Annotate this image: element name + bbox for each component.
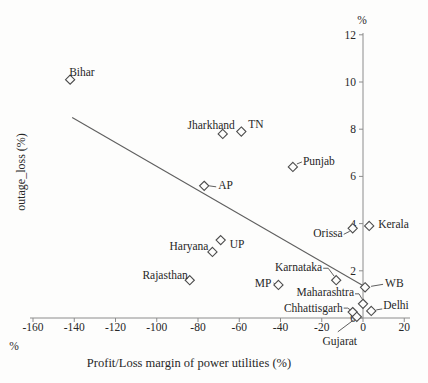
marker-haryana <box>208 247 217 256</box>
point-label-jharkhand: Jharkhand <box>187 119 235 131</box>
y-tick-label: 12 <box>345 29 357 41</box>
leader-line-wb <box>371 284 383 286</box>
x-tick-label: -140 <box>64 321 85 333</box>
x-tick-label: -80 <box>190 321 206 333</box>
point-label-kerala: Kerala <box>378 218 409 230</box>
marker-tn <box>237 127 246 136</box>
point-label-punjab: Punjab <box>303 155 335 168</box>
point-label-karnataka: Karnataka <box>275 261 322 273</box>
point-label-gujarat: Gujarat <box>323 335 358 348</box>
y-axis-title: outage_loss (%) <box>14 133 28 211</box>
x-tick-label: 20 <box>399 321 411 333</box>
point-label-delhi: Delhi <box>383 299 409 311</box>
x-tick-label: -60 <box>232 321 248 333</box>
marker-ap <box>200 181 209 190</box>
x-tick-label: 0 <box>360 321 366 333</box>
point-label-rajasthan: Rajasthan <box>142 269 188 282</box>
y-tick-label: 6 <box>350 170 356 182</box>
leader-line-maharashtra <box>355 294 362 299</box>
marker-delhi <box>367 306 376 315</box>
x-tick-label: -120 <box>105 321 126 333</box>
scatter-plot-canvas: Profit/Loss margin of power utilities (%… <box>0 0 428 383</box>
y-tick-label: 8 <box>350 123 356 135</box>
leader-line-delhi <box>376 309 382 310</box>
marker-punjab <box>288 162 297 171</box>
leader-line-gujarat <box>338 320 354 332</box>
point-label-up: UP <box>230 238 245 250</box>
point-label-ap: AP <box>218 179 233 191</box>
scatter-figure: Profit/Loss margin of power utilities (%… <box>0 0 428 383</box>
marker-wb <box>360 283 369 292</box>
leader-line-ap <box>209 186 216 187</box>
x-axis-unit-label: % <box>9 340 19 352</box>
point-label-wb: WB <box>385 277 404 289</box>
marker-kerala <box>365 221 374 230</box>
x-tick-label: -160 <box>22 321 43 333</box>
x-tick-label: -40 <box>273 321 289 333</box>
x-tick-label: -20 <box>314 321 330 333</box>
leader-line-karnataka <box>323 268 334 276</box>
point-label-haryana: Haryana <box>169 240 208 253</box>
y-axis-unit-label: % <box>357 14 367 26</box>
marker-up <box>216 236 225 245</box>
marker-maharashtra <box>358 299 367 308</box>
marker-karnataka <box>332 276 341 285</box>
marker-mp <box>274 280 283 289</box>
point-label-chhattisgarh: Chhattisgarh <box>284 302 343 315</box>
point-label-tn: TN <box>248 118 264 130</box>
leader-line-orissa <box>344 231 350 234</box>
y-tick-label: 10 <box>345 76 357 88</box>
point-label-bihar: Bihar <box>69 66 95 78</box>
point-label-mp: MP <box>255 277 272 289</box>
point-label-orissa: Orissa <box>313 227 342 239</box>
leader-line-punjab <box>297 162 302 164</box>
x-tick-label: -100 <box>146 321 167 333</box>
x-axis-title: Profit/Loss margin of power utilities (%… <box>87 356 291 370</box>
y-tick-label: 2 <box>350 265 356 277</box>
point-label-maharashtra: Maharashtra <box>297 286 354 298</box>
trend-line <box>72 117 367 288</box>
